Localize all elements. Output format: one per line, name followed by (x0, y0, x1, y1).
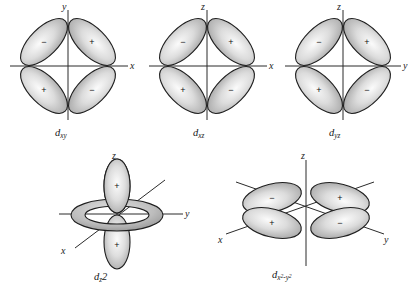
dx2y2-sign-lower-right: − (337, 218, 342, 228)
dxz-sign-upper-right: + (228, 37, 233, 47)
dz2-sign-bottom: + (114, 240, 119, 250)
dx2y2-axis-label-diagonal-right: y (384, 235, 388, 245)
dxz-sign-lower-left: + (180, 85, 185, 95)
dxz-sign-upper-left: − (180, 37, 185, 47)
dz2-axis-label-diagonal: x (61, 246, 65, 256)
dx2y2-sign-upper-right: + (337, 193, 342, 203)
dz2-axis-label-horizontal: y (185, 209, 189, 219)
dyz-sign-upper-right: + (364, 37, 369, 47)
dxy-sign-lower-right: − (89, 85, 94, 95)
dz2-label-sup: 2 (102, 271, 107, 282)
dyz-axis-label-vertical: z (337, 2, 341, 12)
dxz-axis-label-vertical: z (201, 2, 205, 12)
dxy-label-sub: xy (60, 132, 66, 140)
dxy-sign-upper-right: + (89, 37, 94, 47)
dx2y2-axis-label-diagonal-left: x (218, 235, 222, 245)
orbital-dx2y2: − + + − z x y (218, 158, 398, 270)
dxy-sign-lower-left: + (41, 85, 46, 95)
dyz-sign-lower-left: + (316, 85, 321, 95)
dx2y2-sign-upper-left: − (269, 193, 274, 203)
dyz-sign-lower-right: − (364, 85, 369, 95)
orbital-label-dz2: dz2 (94, 272, 107, 284)
orbital-dz2: + + z y x (55, 158, 195, 268)
orbital-label-dxz: dxz (193, 128, 204, 140)
orbital-dyz: − + + − z y (281, 8, 409, 126)
dx2y2-sign-lower-left: + (269, 218, 274, 228)
dxz-sign-lower-right: − (228, 85, 233, 95)
d-orbital-diagram: − + + − y x dxy − + + − z x dxz (0, 0, 409, 300)
dz2-axis-label-vertical: z (112, 151, 116, 161)
dz2-sign-top: + (114, 181, 119, 191)
dx2y2-label-sup-y: 2 (289, 273, 292, 279)
dx2y2-axis-label-vertical: z (301, 151, 305, 161)
dxy-sign-upper-left: − (41, 37, 46, 47)
dyz-axis-label-horizontal: y (403, 61, 407, 71)
dyz-label-sub: yz (334, 132, 340, 140)
orbital-dxz: − + + − z x (145, 8, 273, 126)
orbital-label-dx2y2: dx2-y2 (272, 270, 292, 282)
orbital-label-dxy: dxy (55, 128, 67, 140)
dxy-axis-label-vertical: y (62, 2, 66, 12)
dxy-axis-label-horizontal: x (130, 61, 134, 71)
dxz-label-sub: xz (198, 132, 204, 140)
orbital-dxy: − + + − y x (6, 8, 134, 126)
dyz-sign-upper-left: − (316, 37, 321, 47)
dxz-axis-label-horizontal: x (269, 61, 273, 71)
orbital-label-dyz: dyz (329, 128, 340, 140)
